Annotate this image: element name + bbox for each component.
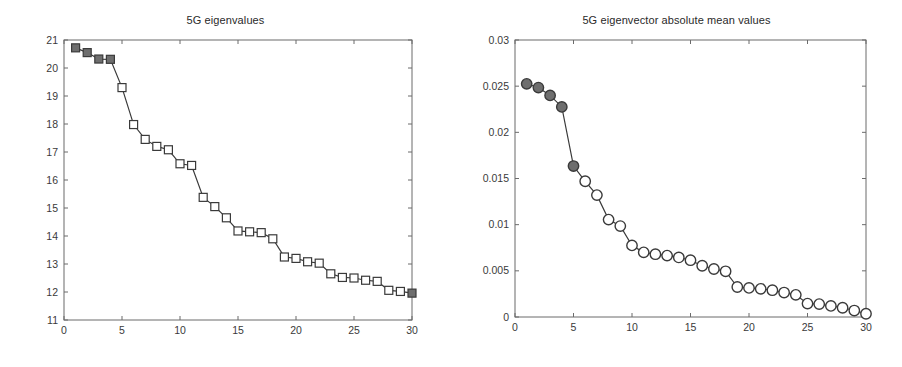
data-point-marker bbox=[304, 258, 312, 266]
data-point-marker bbox=[373, 277, 381, 285]
data-point-marker bbox=[199, 193, 207, 201]
x-tick-label: 0 bbox=[61, 324, 67, 336]
data-point-marker bbox=[269, 235, 277, 243]
y-tick-label: 13 bbox=[46, 258, 58, 270]
x-tick-label: 0 bbox=[512, 321, 518, 333]
data-point-marker bbox=[639, 247, 649, 257]
data-point-marker bbox=[408, 289, 416, 297]
data-point-marker bbox=[164, 146, 172, 154]
y-tick-label: 20 bbox=[46, 62, 58, 74]
data-point-marker bbox=[130, 121, 138, 129]
plot-area-eigenvalues: 0510152025301112131415161718192021 bbox=[0, 0, 451, 367]
data-point-marker bbox=[188, 161, 196, 169]
y-tick-label: 11 bbox=[47, 314, 58, 326]
data-point-marker bbox=[720, 266, 730, 276]
data-point-marker bbox=[615, 221, 625, 231]
data-point-marker bbox=[814, 299, 824, 309]
data-point-marker bbox=[72, 44, 80, 52]
data-point-marker bbox=[802, 298, 812, 308]
data-point-marker bbox=[327, 270, 335, 278]
data-point-marker bbox=[837, 303, 847, 313]
y-tick-label: 0.025 bbox=[483, 80, 509, 92]
y-tick-label: 0.01 bbox=[489, 218, 510, 230]
data-point-marker bbox=[280, 253, 288, 261]
data-series-line bbox=[527, 84, 866, 314]
data-point-marker bbox=[662, 250, 672, 260]
data-point-marker bbox=[650, 249, 660, 259]
data-point-marker bbox=[350, 274, 358, 282]
data-point-marker bbox=[709, 264, 719, 274]
x-tick-label: 15 bbox=[232, 324, 244, 336]
data-point-marker bbox=[744, 283, 754, 293]
data-point-marker bbox=[861, 309, 871, 319]
x-tick-label: 10 bbox=[626, 321, 638, 333]
y-tick-label: 0 bbox=[503, 311, 509, 323]
data-point-marker bbox=[338, 273, 346, 281]
y-tick-label: 0.03 bbox=[489, 34, 510, 46]
data-point-marker bbox=[83, 49, 91, 57]
y-tick-label: 0.015 bbox=[483, 172, 509, 184]
data-point-marker bbox=[315, 259, 323, 267]
data-point-marker bbox=[580, 176, 590, 186]
chart-panel-eigenvector-abs-mean: 5G eigenvector absolute mean values 0510… bbox=[451, 0, 902, 367]
data-point-marker bbox=[362, 276, 370, 284]
data-point-marker bbox=[246, 228, 254, 236]
data-point-marker bbox=[674, 252, 684, 262]
data-point-marker bbox=[106, 55, 114, 63]
y-tick-label: 18 bbox=[46, 118, 58, 130]
data-point-marker bbox=[732, 282, 742, 292]
data-point-marker bbox=[292, 254, 300, 262]
data-point-marker bbox=[211, 203, 219, 211]
data-point-marker bbox=[568, 161, 578, 171]
data-point-marker bbox=[697, 261, 707, 271]
x-tick-label: 5 bbox=[571, 321, 577, 333]
x-tick-label: 10 bbox=[174, 324, 186, 336]
data-point-marker bbox=[95, 55, 103, 63]
x-tick-label: 30 bbox=[860, 321, 872, 333]
x-tick-label: 20 bbox=[743, 321, 755, 333]
data-point-marker bbox=[176, 160, 184, 168]
data-point-marker bbox=[545, 90, 555, 100]
y-tick-label: 12 bbox=[46, 286, 58, 298]
y-tick-label: 0.005 bbox=[483, 264, 509, 276]
data-point-marker bbox=[791, 290, 801, 300]
y-tick-label: 14 bbox=[46, 230, 58, 242]
chart-panel-eigenvalues: 5G eigenvalues 0510152025301112131415161… bbox=[0, 0, 451, 367]
plot-area-eigenvector-abs-mean: 05101520253000.0050.010.0150.020.0250.03 bbox=[451, 0, 902, 367]
data-point-marker bbox=[767, 285, 777, 295]
y-tick-label: 0.02 bbox=[489, 126, 510, 138]
data-point-marker bbox=[627, 240, 637, 250]
data-point-marker bbox=[385, 286, 393, 294]
x-tick-label: 25 bbox=[348, 324, 360, 336]
y-tick-label: 19 bbox=[46, 90, 58, 102]
data-point-marker bbox=[222, 214, 230, 222]
y-tick-label: 16 bbox=[46, 174, 58, 186]
data-point-marker bbox=[603, 214, 613, 224]
data-point-marker bbox=[257, 229, 265, 237]
x-tick-label: 20 bbox=[290, 324, 302, 336]
x-tick-label: 15 bbox=[685, 321, 697, 333]
y-tick-label: 15 bbox=[46, 202, 58, 214]
y-tick-label: 21 bbox=[46, 34, 58, 46]
data-point-marker bbox=[756, 284, 766, 294]
y-tick-label: 17 bbox=[46, 146, 58, 158]
data-point-marker bbox=[141, 135, 149, 143]
data-point-marker bbox=[396, 287, 404, 295]
data-point-marker bbox=[153, 142, 161, 150]
data-point-marker bbox=[849, 305, 859, 315]
data-point-marker bbox=[522, 79, 532, 89]
x-tick-label: 5 bbox=[119, 324, 125, 336]
data-point-marker bbox=[826, 301, 836, 311]
data-point-marker bbox=[533, 82, 543, 92]
data-point-marker bbox=[592, 190, 602, 200]
data-point-marker bbox=[557, 102, 567, 112]
figure-page: 5G eigenvalues 0510152025301112131415161… bbox=[0, 0, 902, 367]
x-tick-label: 25 bbox=[802, 321, 814, 333]
data-point-marker bbox=[118, 84, 126, 92]
data-point-marker bbox=[779, 287, 789, 297]
data-point-marker bbox=[685, 255, 695, 265]
x-tick-label: 30 bbox=[406, 324, 418, 336]
data-point-marker bbox=[234, 227, 242, 235]
